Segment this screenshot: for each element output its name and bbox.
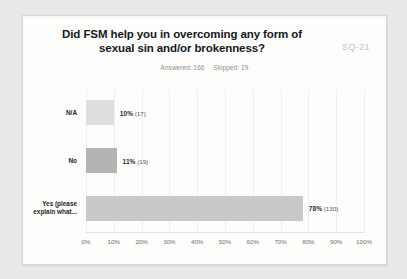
x-tick-label: 60%	[247, 238, 259, 245]
survey-result-card: Did FSM help you in overcoming any form …	[22, 15, 387, 265]
category-label-3: Yes (please explain what...	[25, 200, 77, 216]
question-code-watermark: SQ-21	[342, 42, 370, 52]
x-tick-label: 0%	[82, 238, 91, 245]
x-tick-label: 40%	[191, 238, 203, 245]
x-tick-label: 30%	[163, 238, 175, 245]
category-label-1: N/A	[25, 109, 77, 117]
page-title: Did FSM help you in overcoming any form …	[51, 27, 313, 55]
bar-3[interactable]	[86, 196, 303, 221]
x-tick-label: 70%	[274, 238, 286, 245]
answered-count: Answered: 166	[161, 64, 205, 71]
bar-percent: 10%	[120, 109, 133, 116]
x-axis-line	[86, 232, 365, 233]
bar-percent: 78%	[309, 205, 322, 212]
scan-band	[23, 16, 386, 20]
x-tick-label: 50%	[219, 238, 231, 245]
bar-count: (19)	[135, 157, 148, 164]
bar-row: 11% (19)	[86, 148, 364, 173]
bar-count: (17)	[133, 109, 146, 116]
response-summary: Answered: 166Skipped: 19	[23, 64, 386, 71]
category-label-2: No	[25, 157, 77, 165]
x-tick-label: 90%	[330, 238, 342, 245]
x-tick-label: 20%	[135, 238, 147, 245]
bar-value-label: 10% (17)	[120, 109, 146, 116]
skipped-count: Skipped: 19	[214, 64, 249, 71]
bar-count: (130)	[322, 205, 338, 212]
chart-plot-area: 10% (17)11% (19)78% (130)	[86, 89, 364, 232]
x-tick-label: 10%	[108, 238, 120, 245]
screenshot-page: Did FSM help you in overcoming any form …	[0, 0, 407, 279]
bar-value-label: 11% (19)	[123, 157, 149, 164]
x-tick-label: 100%	[356, 238, 372, 245]
bar-row: 10% (17)	[86, 100, 364, 125]
gridline	[364, 89, 365, 232]
bar-2[interactable]	[86, 148, 117, 173]
x-tick-label: 80%	[302, 238, 314, 245]
bar-percent: 11%	[123, 157, 136, 164]
bar-value-label: 78% (130)	[309, 205, 338, 212]
bar-row: 78% (130)	[86, 196, 364, 221]
bar-1[interactable]	[86, 100, 114, 125]
